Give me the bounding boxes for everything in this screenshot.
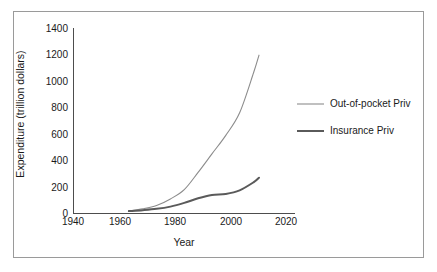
legend-label-out-of-pocket: Out-of-pocket Priv [330, 99, 411, 109]
x-axis-title: Year [73, 236, 295, 248]
series-line-insurance [129, 178, 259, 211]
y-tick-label: 800 [26, 103, 68, 113]
x-tick-label: 2020 [266, 217, 306, 227]
y-tick-label: 200 [26, 183, 68, 193]
series-line-out-of-pocket [129, 55, 259, 211]
y-axis-title: Expenditure (trillion dollars) [14, 34, 26, 194]
y-tick-label: 400 [26, 156, 68, 166]
y-tick-label: 1400 [26, 24, 68, 34]
y-tick-label: 1200 [26, 50, 68, 60]
x-tick-label: 1940 [53, 217, 93, 227]
series-layer [129, 55, 259, 211]
x-tick-label: 2000 [211, 217, 251, 227]
chart-figure: 1400 1200 1000 800 600 400 200 0 1940 19… [0, 0, 437, 272]
legend-swatches [297, 104, 324, 131]
x-tick-label: 1960 [100, 217, 140, 227]
y-tick-label: 1000 [26, 77, 68, 87]
x-tick-label: 1980 [155, 217, 195, 227]
legend-label-insurance: Insurance Priv [330, 126, 394, 136]
y-tick-label: 600 [26, 130, 68, 140]
